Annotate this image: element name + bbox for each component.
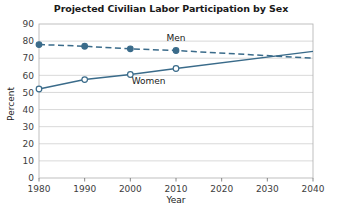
x-axis-title: Year xyxy=(165,195,185,205)
x-tick-label: 2020 xyxy=(210,184,233,194)
y-tick-label: 10 xyxy=(23,156,35,166)
y-tick-label: 90 xyxy=(23,19,35,29)
data-point-women xyxy=(173,66,179,72)
chart-svg: 0102030405060708090 19801990200020102020… xyxy=(0,0,342,211)
x-tick-label: 1980 xyxy=(28,184,51,194)
y-tick-label: 20 xyxy=(23,139,35,149)
y-tick-labels: 0102030405060708090 xyxy=(23,19,35,183)
y-tick-label: 70 xyxy=(23,53,35,63)
y-tick-label: 0 xyxy=(28,173,34,183)
y-tick-label: 80 xyxy=(23,36,35,46)
x-tick-label: 2000 xyxy=(119,184,142,194)
y-axis-title: Percent xyxy=(6,87,16,121)
x-tick-labels: 1980199020002010202020302040 xyxy=(28,184,325,194)
x-tick-label: 2030 xyxy=(256,184,279,194)
data-point-women xyxy=(36,86,42,92)
x-tick-label: 1990 xyxy=(73,184,96,194)
plot-frame xyxy=(39,24,313,178)
series-group xyxy=(36,42,313,92)
series-label-men: Men xyxy=(166,33,185,43)
data-point-men xyxy=(173,48,179,54)
y-tick-label: 60 xyxy=(23,71,35,81)
y-tick-label: 50 xyxy=(23,88,35,98)
y-tick-label: 40 xyxy=(23,105,35,115)
data-point-men xyxy=(128,46,134,52)
chart-container: Projected Civilian Labor Participation b… xyxy=(0,0,342,211)
x-tick-label: 2040 xyxy=(302,184,325,194)
x-tick-marks xyxy=(39,178,313,182)
data-point-men xyxy=(82,43,88,49)
series-label-women: Women xyxy=(132,76,166,86)
y-tick-label: 30 xyxy=(23,122,35,132)
x-tick-label: 2010 xyxy=(165,184,188,194)
data-point-women xyxy=(82,77,88,83)
gridlines-group xyxy=(39,41,313,161)
data-point-men xyxy=(36,42,42,48)
